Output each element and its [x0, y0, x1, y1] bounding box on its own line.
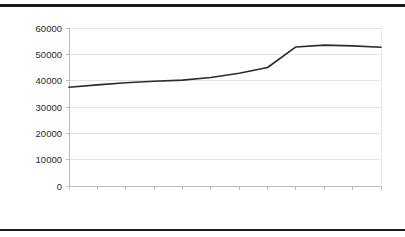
- ytick-label: 10000: [36, 154, 62, 165]
- figure: 0100002000030000400005000060000 19941995…: [0, 0, 405, 237]
- ytick-label: 60000: [36, 23, 62, 34]
- ytick-label: 0: [57, 181, 62, 192]
- ytick-label: 20000: [36, 128, 62, 139]
- top-horizontal-rule: [0, 4, 405, 7]
- ytick-label-group: 0100002000030000400005000060000: [36, 23, 62, 192]
- line-chart: 0100002000030000400005000060000 19941995…: [0, 10, 405, 228]
- ytick-label: 50000: [36, 49, 62, 60]
- bottom-horizontal-rule: [0, 229, 405, 231]
- ytick-label: 40000: [36, 75, 62, 86]
- ytick-label: 30000: [36, 102, 62, 113]
- xtick-mark-group: [69, 186, 381, 190]
- gridline-group: [69, 28, 381, 186]
- chart-canvas: 0100002000030000400005000060000 19941995…: [0, 10, 405, 228]
